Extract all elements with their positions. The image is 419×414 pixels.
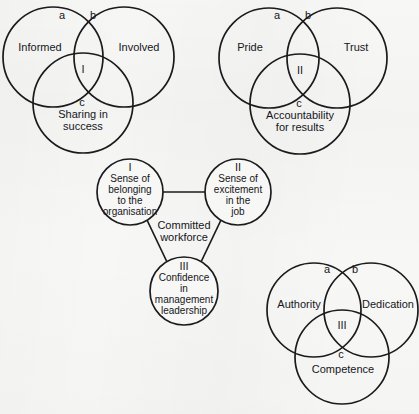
top-right-region-a: a bbox=[274, 10, 280, 22]
circle-trust bbox=[287, 8, 387, 108]
circle-involved bbox=[74, 7, 174, 107]
bottom-right-roman-numeral: III bbox=[337, 320, 346, 332]
bottom-right-region-a: a bbox=[324, 264, 330, 276]
bottom-right-region-c: c bbox=[338, 349, 344, 361]
committed-workforce-label: Committed workforce bbox=[157, 219, 210, 243]
top-left-region-a: a bbox=[59, 10, 65, 22]
top-right-roman-numeral: II bbox=[297, 65, 303, 77]
label-sharing-in-success: Sharing in success bbox=[58, 109, 108, 132]
bottom-right-region-b: b bbox=[352, 264, 358, 276]
node-ii-text: Sense of excitement in the job bbox=[214, 173, 262, 217]
circle-pride bbox=[219, 8, 319, 108]
bottom-right-venn-circles bbox=[267, 263, 418, 404]
top-left-region-b: b bbox=[90, 10, 96, 22]
node-iii-text: Confidence in management leadership bbox=[155, 272, 213, 316]
diagram-vector-layer bbox=[0, 0, 419, 414]
top-right-region-b: b bbox=[305, 10, 311, 22]
label-pride: Pride bbox=[237, 42, 263, 54]
node-i-text: Sense of belonging to the organisation bbox=[103, 173, 157, 217]
label-trust: Trust bbox=[344, 42, 369, 54]
label-accountability-for-results: Accountability for results bbox=[266, 110, 334, 133]
label-involved: Involved bbox=[119, 42, 160, 54]
diagram-page: a b c Informed Involved Sharing in succe… bbox=[0, 0, 419, 414]
label-informed: Informed bbox=[18, 42, 61, 54]
label-authority: Authority bbox=[277, 299, 320, 311]
top-left-roman-numeral: I bbox=[81, 64, 84, 76]
label-competence: Competence bbox=[312, 364, 374, 376]
label-dedication: Dedication bbox=[362, 299, 414, 311]
